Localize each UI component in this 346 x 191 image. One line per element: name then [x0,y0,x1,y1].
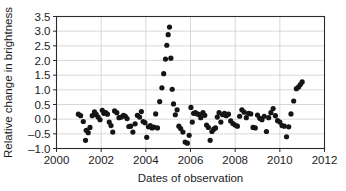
data-point [155,125,160,130]
data-point [208,138,213,143]
x-tick-label: 2000 [44,154,70,166]
data-point [286,124,291,129]
x-axis-tick-labels: 2000200220042006200820102012 [44,154,338,166]
data-point [144,135,149,140]
data-point [142,120,147,125]
data-point [167,24,172,29]
data-point [218,120,223,125]
data-point [253,125,258,130]
data-point [187,133,192,138]
data-point [163,56,168,61]
data-point [273,113,278,118]
data-point [190,120,195,125]
data-point [108,123,113,128]
data-point [284,134,289,139]
data-point [97,117,102,122]
data-point [180,129,185,134]
data-point [86,130,91,135]
y-tick-label: 2.5 [35,40,51,52]
data-point [291,98,296,103]
x-tick-label: 2006 [178,154,204,166]
y-tick-label: 1.0 [35,84,51,96]
y-axis-title: Relative change in brightness [2,7,14,158]
data-point [133,121,138,126]
x-tick-label: 2002 [88,154,114,166]
data-point [300,79,305,84]
data-point [170,87,175,92]
data-point [262,114,267,119]
data-point [244,115,249,120]
x-tick-label: 2012 [312,154,338,166]
data-point [288,111,293,116]
y-tick-label: –0.5 [28,128,50,140]
data-point [206,125,211,130]
y-axis-tick-labels: –1.0–0.50.00.51.01.52.02.53.03.5 [28,11,50,155]
data-point [166,32,171,37]
data-point [185,141,190,146]
data-point [137,115,142,120]
y-tick-label: 3.0 [35,25,51,37]
y-tick-label: 3.5 [35,11,51,23]
y-tick-label: 1.5 [35,69,51,81]
data-point [159,85,164,90]
data-point [213,125,218,130]
y-tick-label: 0.5 [35,99,51,111]
data-point [139,109,144,114]
data-point [226,112,231,117]
data-point [87,125,92,130]
x-tick-label: 2010 [267,154,293,166]
data-point [105,112,110,117]
x-axis-title: Dates of observation [138,172,243,184]
data-point [188,105,193,110]
data-point [282,124,287,129]
data-point [264,129,269,134]
y-tick-label: 2.0 [35,55,51,67]
data-point [78,113,83,118]
data-point [237,114,242,119]
data-point [81,119,86,124]
data-point [175,107,180,112]
data-point [242,110,247,115]
data-point [161,71,166,76]
data-point [173,112,178,117]
data-point [164,43,169,48]
data-point [266,115,271,120]
chart-figure: 2000200220042006200820102012 –1.0–0.50.0… [0,0,346,191]
data-point [202,113,207,118]
data-point [130,129,135,134]
x-tick-label: 2008 [222,154,248,166]
data-point [248,111,253,116]
data-point [110,129,115,134]
data-point [271,106,276,111]
data-point [83,138,88,143]
x-tick-label: 2004 [133,154,159,166]
data-point [235,124,240,129]
data-point [124,116,129,121]
data-point [168,56,173,61]
data-point [114,110,119,115]
y-tick-label: 0.0 [35,113,51,125]
data-point [157,99,162,104]
tick-marks [53,17,325,153]
data-point [128,124,133,129]
data-point [171,101,176,106]
y-tick-label: –1.0 [28,143,50,155]
data-point [153,111,158,116]
scatter-plot: 2000200220042006200820102012 –1.0–0.50.0… [0,0,346,191]
